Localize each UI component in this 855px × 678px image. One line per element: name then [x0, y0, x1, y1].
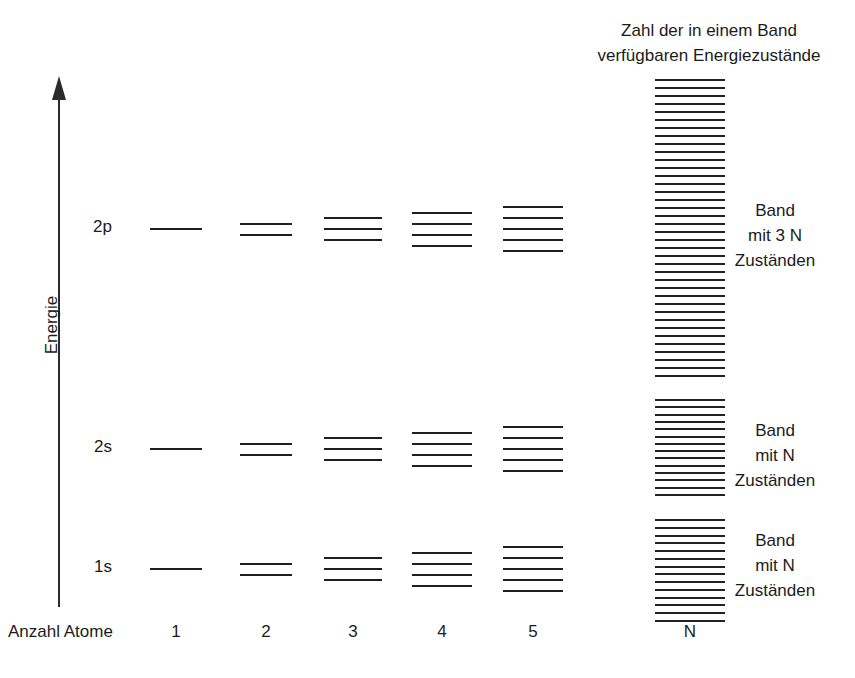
energy-level-line: [324, 239, 382, 241]
band-state-line: [655, 612, 725, 614]
band-state-line: [655, 287, 725, 289]
energy-level-line: [503, 568, 563, 570]
band-state-line: [655, 519, 725, 521]
energy-level-line: [324, 448, 382, 450]
band-state-line: [655, 406, 725, 408]
band-state-line: [655, 79, 725, 81]
energy-level-line: [240, 574, 292, 576]
energy-level-line: [412, 234, 472, 236]
energy-level-line: [240, 563, 292, 565]
energy-level-line: [412, 212, 472, 214]
energy-level-line: [412, 563, 472, 565]
energy-level-line: [324, 459, 382, 461]
energy-level-line: [150, 228, 202, 230]
energy-level-line: [412, 223, 472, 225]
band-state-line: [655, 127, 725, 129]
energy-level-line: [412, 465, 472, 467]
column-tick-3: 3: [333, 622, 373, 642]
energy-level-line: [412, 585, 472, 587]
band-state-line: [655, 351, 725, 353]
band-caption-2s: Band mit N Zuständen: [695, 418, 855, 493]
energy-level-line: [503, 579, 563, 581]
energy-level-line: [324, 557, 382, 559]
energy-level-line: [412, 574, 472, 576]
energy-level-line: [412, 454, 472, 456]
band-state-line: [655, 319, 725, 321]
column-tick-1: 1: [156, 622, 196, 642]
energy-level-line: [324, 217, 382, 219]
energy-level-line: [324, 228, 382, 230]
band-state-line: [655, 95, 725, 97]
energy-level-line: [503, 437, 563, 439]
column-tick-5: 5: [513, 622, 553, 642]
energy-level-line: [503, 239, 563, 241]
energy-level-line: [324, 568, 382, 570]
energy-level-line: [503, 250, 563, 252]
band-state-line: [655, 119, 725, 121]
energy-level-line: [503, 590, 563, 592]
energy-level-line: [503, 206, 563, 208]
band-caption-1s: Band mit N Zuständen: [695, 528, 855, 603]
band-state-line: [655, 494, 725, 496]
band-state-line: [655, 367, 725, 369]
energy-level-line: [503, 448, 563, 450]
band-state-line: [655, 359, 725, 361]
energy-level-line: [503, 459, 563, 461]
band-state-line: [655, 414, 725, 416]
energy-level-line: [412, 245, 472, 247]
band-state-line: [655, 343, 725, 345]
band-state-line: [655, 183, 725, 185]
energy-level-line: [150, 568, 202, 570]
band-state-line: [655, 87, 725, 89]
column-tick-n: N: [670, 622, 710, 642]
band-state-line: [655, 327, 725, 329]
energy-band-diagram: Zahl der in einem Band verfügbaren Energ…: [0, 0, 855, 678]
band-state-line: [655, 135, 725, 137]
orbital-label-2p: 2p: [68, 217, 112, 237]
energy-level-line: [503, 426, 563, 428]
atom-count-axis-label: Anzahl Atome: [8, 622, 113, 642]
band-state-line: [655, 151, 725, 153]
band-state-line: [655, 111, 725, 113]
orbital-label-2s: 2s: [68, 437, 112, 457]
energy-level-line: [240, 454, 292, 456]
band-state-line: [655, 103, 725, 105]
band-state-line: [655, 311, 725, 313]
band-state-line: [655, 335, 725, 337]
energy-level-line: [503, 228, 563, 230]
energy-level-line: [412, 443, 472, 445]
band-state-line: [655, 399, 725, 401]
energy-level-line: [150, 448, 202, 450]
energy-axis-label: Energie: [42, 265, 62, 385]
diagram-heading: Zahl der in einem Band verfügbaren Energ…: [563, 18, 855, 68]
band-state-line: [655, 143, 725, 145]
band-state-line: [655, 167, 725, 169]
band-state-line: [655, 279, 725, 281]
energy-level-line: [503, 217, 563, 219]
column-tick-4: 4: [422, 622, 462, 642]
energy-level-line: [240, 234, 292, 236]
energy-level-line: [412, 552, 472, 554]
band-state-line: [655, 303, 725, 305]
band-state-line: [655, 604, 725, 606]
energy-level-line: [324, 437, 382, 439]
band-caption-2p: Band mit 3 N Zuständen: [695, 198, 855, 273]
energy-level-line: [324, 579, 382, 581]
band-state-line: [655, 191, 725, 193]
column-tick-2: 2: [246, 622, 286, 642]
energy-level-line: [503, 557, 563, 559]
energy-level-line: [240, 443, 292, 445]
energy-level-line: [240, 223, 292, 225]
orbital-label-1s: 1s: [68, 557, 112, 577]
band-state-line: [655, 159, 725, 161]
energy-level-line: [503, 470, 563, 472]
band-state-line: [655, 375, 725, 377]
energy-level-line: [503, 546, 563, 548]
energy-level-line: [412, 432, 472, 434]
band-state-line: [655, 295, 725, 297]
band-state-line: [655, 175, 725, 177]
